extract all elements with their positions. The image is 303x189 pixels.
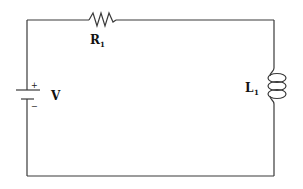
battery-label: V — [50, 89, 61, 103]
battery-negative-sign: − — [31, 102, 38, 111]
inductor-label-subscript: 1 — [254, 88, 259, 97]
inductor-label: L — [245, 81, 254, 95]
resistor-label-subscript: 1 — [100, 40, 105, 49]
inductor-l1 — [268, 68, 286, 104]
battery-positive-sign: + — [31, 81, 38, 90]
circuit-diagram: + − V R 1 L 1 — [0, 0, 303, 189]
resistor-r1 — [89, 13, 116, 26]
battery-v — [16, 90, 40, 99]
